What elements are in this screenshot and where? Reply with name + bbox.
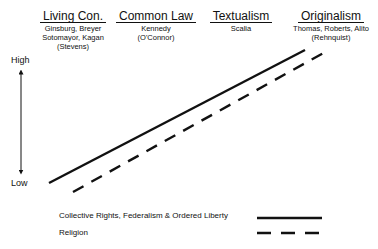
religion-line [73, 51, 327, 192]
legend-label-collective-rights: Collective Rights, Federalism & Ordered … [59, 211, 228, 220]
collective-rights-line [49, 50, 305, 183]
legend-label-religion: Religion [59, 228, 88, 237]
